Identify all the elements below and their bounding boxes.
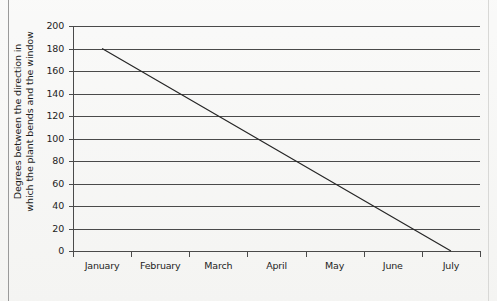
y-tick-label: 100 — [24, 133, 64, 144]
x-tick-mark — [247, 252, 248, 257]
line-chart: Degrees between the direction in which t… — [0, 0, 497, 301]
x-tick-label: July — [422, 260, 480, 271]
x-tick-mark — [480, 252, 481, 257]
x-tick-mark — [364, 252, 365, 257]
x-tick-mark — [189, 252, 190, 257]
x-tick-label: May — [306, 260, 364, 271]
y-tick-label: 140 — [24, 88, 64, 99]
y-tick-label: 60 — [24, 178, 64, 189]
y-tick-label: 160 — [24, 65, 64, 76]
y-tick-label: 0 — [24, 245, 64, 256]
x-tick-mark — [306, 252, 307, 257]
x-tick-label: February — [131, 260, 189, 271]
x-tick-label: March — [189, 260, 247, 271]
y-tick-label: 80 — [24, 155, 64, 166]
y-tick-label: 200 — [24, 20, 64, 31]
x-tick-label: April — [247, 260, 305, 271]
x-tick-mark — [422, 252, 423, 257]
y-axis-title-line-1: Degrees between the direction in — [12, 0, 24, 301]
y-tick-label: 40 — [24, 200, 64, 211]
y-tick-label: 180 — [24, 43, 64, 54]
x-tick-label: June — [364, 260, 422, 271]
data-series-line — [73, 26, 480, 251]
x-tick-mark — [131, 252, 132, 257]
y-tick-label: 20 — [24, 223, 64, 234]
gridline — [73, 251, 480, 252]
y-tick-label: 120 — [24, 110, 64, 121]
plot-area — [73, 26, 480, 251]
x-tick-label: January — [73, 260, 131, 271]
series-polyline — [102, 49, 451, 252]
x-tick-mark — [73, 252, 74, 257]
